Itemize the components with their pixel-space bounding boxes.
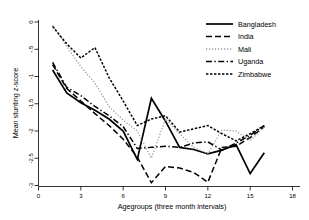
legend-label-uganda: Uganda (238, 57, 263, 66)
chart-legend: BangladeshIndiaMaliUgandaZimbabwe (206, 20, 276, 79)
y-tick-label: -3 (28, 182, 34, 188)
legend-label-mali: Mali (238, 45, 252, 54)
y-tick-label: -1 (28, 73, 34, 79)
legend-label-india: India (238, 32, 254, 41)
y-axis-ticks: 0-.5-1-1.5-2-2.5-3 (28, 20, 39, 189)
series-line-india (53, 65, 265, 183)
stunting-zscore-line-chart: 0-.5-1-1.5-2-2.5-3 0369121518 Mean stunt… (0, 0, 309, 220)
x-tick-label: 9 (164, 193, 168, 199)
y-tick-label: -.5 (28, 45, 34, 53)
x-tick-label: 0 (37, 193, 41, 199)
series-line-bangladesh (53, 70, 265, 174)
y-tick-label: -2.5 (28, 152, 34, 163)
chart-canvas: 0-.5-1-1.5-2-2.5-3 0369121518 Mean stunt… (0, 0, 309, 220)
series-line-zimbabwe (53, 26, 265, 140)
y-tick-label: -2 (28, 128, 34, 134)
x-axis-ticks: 0369121518 (37, 187, 297, 200)
x-tick-label: 6 (121, 193, 125, 199)
legend-label-bangladesh: Bangladesh (238, 20, 276, 29)
x-tick-label: 15 (247, 193, 254, 199)
data-series-group (53, 25, 265, 183)
legend-label-zimbabwe: Zimbabwe (238, 70, 271, 79)
x-tick-label: 18 (289, 193, 296, 199)
y-axis-title: Mean stunting z-score (11, 68, 20, 139)
x-tick-label: 3 (79, 193, 83, 199)
x-tick-label: 12 (204, 193, 211, 199)
y-tick-label: -1.5 (28, 98, 34, 109)
x-axis-title: Agegroups (three month intervals) (118, 202, 227, 211)
y-tick-label: 0 (28, 20, 34, 24)
